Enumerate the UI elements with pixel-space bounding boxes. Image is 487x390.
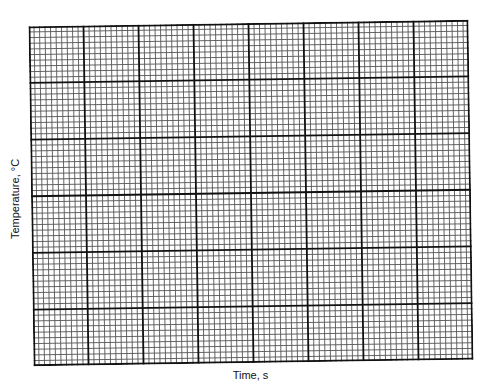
plot-area [29, 20, 474, 366]
x-axis-label: Time, s [0, 369, 487, 381]
y-axis-label: Temperature, °C [9, 159, 21, 239]
graph-paper-grid [29, 20, 474, 366]
